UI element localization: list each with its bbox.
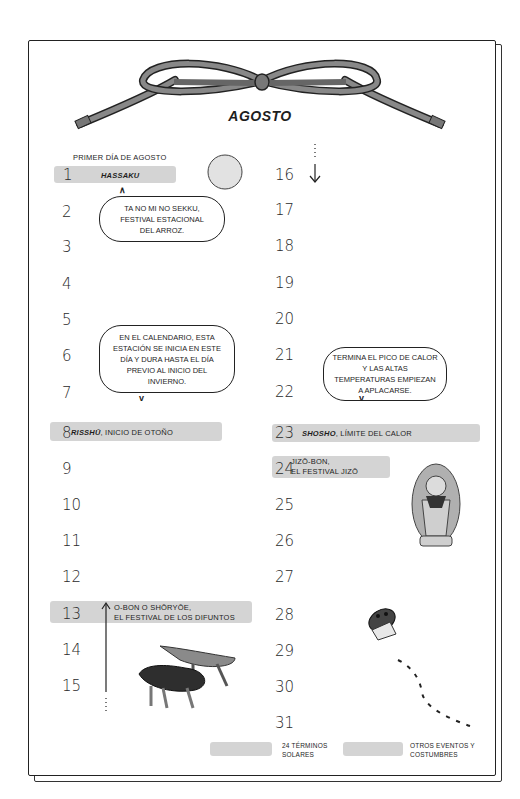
speech-bubble-risshu: EN EL CALENDARIO, ESTA ESTACIÓN SE INICI…	[99, 325, 235, 393]
event-shosho: SHOSHO, LÍMITE DEL CALOR	[302, 429, 412, 438]
legend-label-solar: 24 TÉRMINOS SOLARES	[282, 741, 342, 759]
legend-swatch-solar	[210, 742, 272, 756]
day-number: 6	[62, 347, 72, 365]
bubble-tail-icon: v	[139, 393, 144, 403]
day-number: 29	[275, 642, 294, 660]
day-number: 1	[63, 166, 73, 184]
spirit-animals-icon	[135, 640, 245, 710]
obon-arrow-icon	[100, 600, 120, 720]
continuation-arrow-icon	[308, 142, 328, 187]
day-number: 4	[62, 275, 72, 293]
ladybug-icon	[360, 600, 480, 720]
day-number: 17	[275, 201, 294, 219]
speech-bubble-shosho: TERMINA EL PICO DE CALOR Y LAS ALTAS TEM…	[323, 347, 447, 401]
day-number: 28	[275, 606, 294, 624]
day-number: 14	[62, 641, 81, 659]
bubble-tail-icon: v	[359, 393, 364, 403]
day-number: 3	[62, 238, 72, 256]
day-number: 24	[275, 460, 294, 478]
event-jizo-bon: JIZŌ-BON, EL FESTIVAL JIZŌ	[291, 457, 358, 477]
day-number: 2	[62, 203, 72, 221]
hassaku-orange-icon	[206, 153, 246, 193]
day-number: 7	[62, 384, 72, 402]
day-number: 9	[62, 460, 72, 478]
speech-bubble-hassaku: TA NO MI NO SEKKU, FESTIVAL ESTACIONAL D…	[99, 196, 225, 242]
day-number: 30	[275, 678, 294, 696]
day-number: 15	[62, 677, 81, 695]
day-number: 25	[275, 496, 294, 514]
day-number: 21	[275, 346, 294, 364]
day-number: 12	[62, 568, 81, 586]
month-title: AGOSTO	[0, 108, 520, 124]
event-risshu: RISSHŪ, INICIO DE OTOÑO	[71, 428, 173, 437]
event-hassaku: HASSAKU	[101, 171, 140, 180]
day-number: 22	[275, 383, 294, 401]
day-number: 11	[62, 532, 81, 550]
day-number: 20	[275, 310, 294, 328]
event-obon: O-BON O SHŌRYŌE, EL FESTIVAL DE LOS DIFU…	[114, 603, 235, 623]
day-number: 16	[275, 166, 294, 184]
jizo-statue-icon	[408, 462, 468, 562]
day-number: 19	[275, 274, 294, 292]
day-number: 18	[275, 237, 294, 255]
rope-bow-icon	[0, 0, 520, 150]
day-number: 27	[275, 568, 294, 586]
day-number: 5	[62, 311, 72, 329]
legend-swatch-other	[343, 742, 403, 756]
legend-label-other: OTROS EVENTOS Y COSTUMBRES	[410, 741, 480, 759]
day-number: 8	[62, 424, 72, 442]
first-day-note: PRIMER DÍA DE AGOSTO	[73, 153, 166, 162]
day-number: 31	[275, 714, 294, 732]
day-number: 26	[275, 532, 294, 550]
day-number: 10	[62, 496, 81, 514]
day-number: 23	[275, 424, 294, 442]
bubble-tail-icon: ∧	[119, 185, 126, 195]
day-number: 13	[62, 605, 81, 623]
